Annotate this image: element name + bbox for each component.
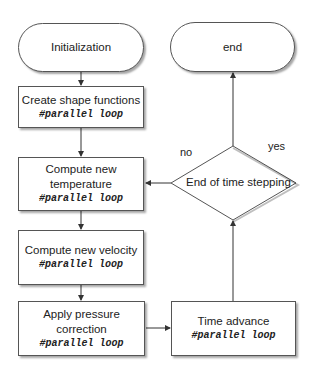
apply-pressure-correction-node: Apply pressure correction #parallel loop: [18, 301, 145, 356]
parallel-loop-tag: #parallel loop: [39, 337, 123, 351]
decision-label: End of time stepping: [186, 176, 291, 188]
time-advance-label: Time advance: [198, 314, 270, 329]
time-advance-node: Time advance #parallel loop: [171, 301, 296, 356]
end-node: end: [170, 22, 295, 72]
create-shape-functions-label: Create shape functions: [22, 93, 140, 108]
compute-velocity-node: Compute new velocity #parallel loop: [18, 230, 144, 285]
apply-pressure-correction-label: Apply pressure correction: [19, 307, 144, 337]
compute-temperature-label-line1: Compute new: [46, 162, 117, 177]
parallel-loop-tag: #parallel loop: [191, 329, 275, 343]
edge-label-no: no: [180, 146, 192, 158]
compute-temperature-node: Compute new temperature #parallel loop: [18, 157, 144, 211]
initialization-node: Initialization: [18, 23, 144, 72]
initialization-label: Initialization: [51, 40, 111, 55]
parallel-loop-tag: #parallel loop: [39, 192, 123, 206]
parallel-loop-tag: #parallel loop: [39, 108, 123, 122]
create-shape-functions-node: Create shape functions #parallel loop: [18, 86, 144, 128]
compute-velocity-label: Compute new velocity: [25, 243, 138, 258]
end-label: end: [223, 40, 242, 55]
compute-temperature-label-line2: temperature: [50, 177, 112, 192]
edge-label-yes: yes: [268, 140, 285, 152]
parallel-loop-tag: #parallel loop: [39, 258, 123, 272]
